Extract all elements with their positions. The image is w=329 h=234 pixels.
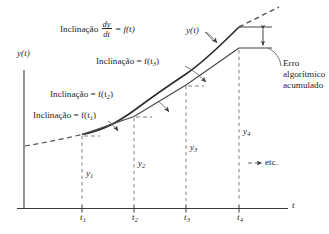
- exact-curve-right-dashed: [239, 7, 279, 27]
- t4-tick-label: t4: [232, 212, 248, 223]
- t2-subscript: 2: [135, 216, 138, 223]
- t1-subscript: 1: [83, 216, 86, 223]
- slope-t3-annotation: Inclinação = f(t3): [96, 56, 159, 67]
- slope-t3-prefix: Inclinação = f(t: [96, 56, 153, 66]
- accumulated-error-line2: algorítmico: [283, 69, 325, 80]
- slope-t1-annotation: Inclinação = f(t1): [33, 110, 96, 121]
- slope-t1-suffix: ): [93, 110, 96, 120]
- y2-value-label: y2: [138, 158, 145, 169]
- y1-value-label: y1: [86, 168, 93, 179]
- error-label-leader: [268, 48, 281, 66]
- exact-curve-left-dashed: [25, 135, 82, 147]
- derivative-numerator: dy: [102, 20, 112, 30]
- t4-subscript: 4: [240, 216, 243, 223]
- y1-subscript: 1: [90, 172, 93, 179]
- slope-t1-prefix: Inclinação = f(t: [33, 110, 90, 120]
- exact-solution-curve: [82, 27, 239, 135]
- slope-general-equality: = f(t): [115, 24, 135, 34]
- y4-value-label: y4: [243, 126, 250, 137]
- t2-tick-label: t2: [127, 212, 143, 223]
- t1-tick-label: t1: [75, 212, 91, 223]
- y2-subscript: 2: [142, 162, 145, 169]
- slope-t2-prefix: Inclinação = f(t: [50, 89, 107, 99]
- t3-subscript: 3: [187, 216, 190, 223]
- exact-curve-label: y(t): [186, 25, 199, 35]
- t-axis-label: t: [292, 200, 295, 210]
- error-bracket: [239, 27, 272, 48]
- y3-value-label: y3: [190, 142, 197, 153]
- slope-general-prefix: Inclinação: [60, 24, 98, 34]
- slope-t2-annotation: Inclinação = f(t2): [50, 89, 113, 100]
- vertical-guide-lines: [82, 50, 239, 201]
- y-axis-label: y(t): [17, 48, 30, 58]
- euler-method-figure: y(t) t Inclinação dy dt = f(t) Inclinaçã…: [0, 0, 329, 234]
- curve-label-leader: [205, 32, 214, 42]
- y3-subscript: 3: [194, 146, 197, 153]
- slope-t3-suffix: ): [156, 56, 159, 66]
- slope-general-annotation: Inclinação dy dt = f(t): [60, 20, 135, 39]
- t3-tick-label: t3: [179, 212, 195, 223]
- derivative-denominator: dt: [102, 29, 112, 38]
- accumulated-error-label: Erro algorítmico acumulado: [283, 58, 325, 92]
- y4-subscript: 4: [247, 130, 250, 137]
- accumulated-error-line3: acumulado: [283, 80, 325, 91]
- slope-t2-suffix: ): [110, 89, 113, 99]
- derivative-fraction: dy dt: [102, 20, 112, 39]
- accumulated-error-line1: Erro: [283, 58, 325, 69]
- etc-label: etc.: [265, 157, 278, 167]
